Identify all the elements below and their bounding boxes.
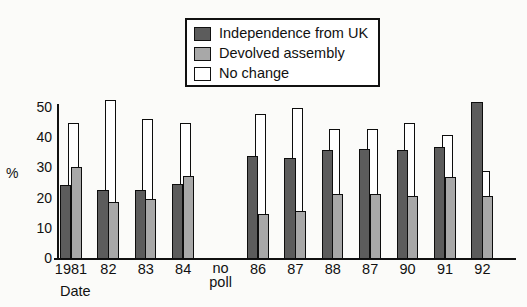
bar-devolved	[108, 202, 119, 259]
bar-group	[471, 100, 508, 259]
bar-group	[284, 100, 321, 259]
legend-item-independence: Independence from UK	[194, 24, 372, 43]
bar-devolved	[370, 194, 381, 259]
legend-swatch-nochange	[194, 67, 211, 81]
bar-devolved	[145, 199, 156, 259]
x-axis-title: Date	[60, 283, 91, 299]
x-tick-label: 88	[325, 262, 341, 277]
x-tick-label: 92	[474, 262, 490, 277]
bar-independence	[135, 190, 146, 259]
bar-group	[60, 100, 97, 259]
y-axis-title: %	[6, 165, 18, 181]
bar-independence	[60, 185, 71, 259]
x-tick-label: 90	[400, 262, 416, 277]
x-tick-label: 83	[138, 262, 154, 277]
x-tick-label: 84	[175, 262, 191, 277]
bar-group	[97, 100, 134, 259]
legend-item-devolved: Devolved assembly	[194, 44, 372, 63]
y-tick-40: 40	[28, 130, 52, 144]
legend-label-independence: Independence from UK	[219, 26, 368, 41]
x-tick-label: 82	[100, 262, 116, 277]
legend-label-devolved: Devolved assembly	[219, 46, 345, 61]
y-axis-tick-labels: 01020304050	[22, 0, 52, 307]
bar-independence	[359, 149, 370, 259]
chart-legend: Independence from UK Devolved assembly N…	[185, 18, 380, 87]
bar-devolved	[295, 211, 306, 259]
x-tick-label: 91	[437, 262, 453, 277]
y-tick-10: 10	[28, 221, 52, 235]
bar-group	[172, 100, 209, 259]
bar-devolved	[183, 176, 194, 259]
plot-area	[58, 100, 514, 259]
bar-independence	[397, 150, 408, 259]
bar-group	[247, 100, 284, 259]
bar-independence	[471, 102, 482, 259]
bar-independence	[247, 156, 258, 259]
bar-devolved	[332, 194, 343, 259]
y-tick-50: 50	[28, 100, 52, 114]
bar-independence	[172, 184, 183, 260]
bar-group	[359, 100, 396, 259]
legend-swatch-independence	[194, 27, 211, 41]
y-tick-30: 30	[28, 160, 52, 174]
y-tick-20: 20	[28, 191, 52, 205]
bar-independence	[284, 158, 295, 259]
bar-devolved	[258, 214, 269, 259]
bar-devolved	[71, 167, 82, 259]
bar-group	[322, 100, 359, 259]
bar-devolved	[482, 196, 493, 259]
bar-independence	[97, 190, 108, 259]
x-tick-label: nopoll	[209, 261, 232, 289]
x-tick-label: 87	[362, 262, 378, 277]
bar-chart: Independence from UK Devolved assembly N…	[0, 0, 527, 307]
bar-devolved	[407, 196, 418, 259]
x-tick-label: 87	[287, 262, 303, 277]
bar-group	[210, 100, 247, 259]
bar-group	[135, 100, 172, 259]
legend-label-nochange: No change	[219, 66, 289, 81]
bar-independence	[434, 147, 445, 259]
bar-independence	[322, 150, 333, 259]
legend-swatch-devolved	[194, 47, 211, 61]
legend-item-nochange: No change	[194, 64, 372, 83]
x-tick-label: 1981	[55, 262, 87, 277]
x-tick-label: 86	[250, 262, 266, 277]
bar-devolved	[445, 177, 456, 259]
bar-group	[434, 100, 471, 259]
bar-group	[397, 100, 434, 259]
